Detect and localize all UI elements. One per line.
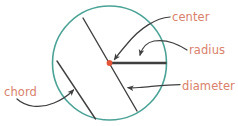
label-diameter: diameter xyxy=(182,80,235,93)
center-point xyxy=(107,60,113,66)
chord-line xyxy=(57,61,96,119)
diameter-arrow xyxy=(128,85,180,88)
label-center: center xyxy=(172,11,210,24)
label-radius: radius xyxy=(189,44,225,57)
diagram-canvas: center radius diameter chord xyxy=(0,0,238,126)
label-chord: chord xyxy=(4,86,37,99)
